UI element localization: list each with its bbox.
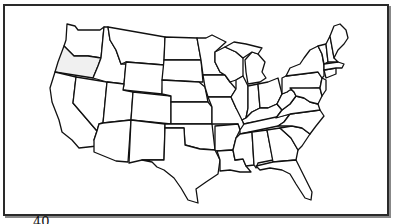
state-maine[interactable] <box>330 24 348 58</box>
state-colorado[interactable] <box>131 92 171 124</box>
number-label: 40 <box>33 215 50 224</box>
state-michigan[interactable] <box>245 52 266 84</box>
state-kansas[interactable] <box>171 102 212 124</box>
state-new-mexico[interactable] <box>129 120 165 163</box>
state-florida[interactable] <box>256 160 312 200</box>
state-south-dakota[interactable] <box>162 60 203 82</box>
state-north-dakota[interactable] <box>164 37 201 60</box>
us-map <box>0 0 395 224</box>
state-wyoming[interactable] <box>123 62 164 94</box>
state-new-jersey[interactable] <box>320 78 326 96</box>
state-new-york[interactable] <box>286 46 324 78</box>
state-arizona[interactable] <box>94 120 131 162</box>
